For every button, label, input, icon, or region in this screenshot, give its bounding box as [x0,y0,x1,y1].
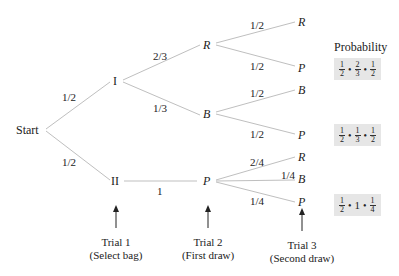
node-first-draw-B: B [203,108,210,120]
edge-prob-I-B: 1/3 [153,103,167,114]
edge-prob-R-R: 1/2 [250,20,264,31]
probability-box-3: 12 • 1 • 14 [334,194,381,216]
trial-1-label: Trial 1 (Select bag) [86,236,146,262]
fraction: 12 [370,127,376,144]
probability-box-1: 12 • 23 • 12 [334,58,381,80]
edge-prob-B-B: 1/2 [250,88,264,99]
node-second-draw-B-B: B [298,84,305,96]
trial-3-label: Trial 3 (Second draw) [266,239,338,265]
fraction: 13 [355,127,361,144]
node-second-draw-R-R: R [298,16,305,28]
edge-prob-I-R: 2/3 [153,51,167,62]
fraction: 14 [370,197,376,214]
node-second-draw-B-P: P [298,129,305,141]
edge-prob-start-I: 1/2 [62,92,76,103]
edge-prob-P-B: 1/4 [281,170,295,181]
edge-prob-P-P: 1/4 [250,196,264,207]
node-bag-II: II [111,175,119,187]
fraction: 23 [355,61,361,78]
node-first-draw-R: R [203,39,210,51]
node-second-draw-P-P: P [298,196,305,208]
multiply-dot: • [364,64,368,75]
multiply-dot: • [348,64,352,75]
edge-prob-B-P: 1/2 [250,129,264,140]
node-bag-I: I [113,75,117,87]
probability-box-2: 12 • 13 • 12 [334,124,381,146]
probability-header: Probability [334,41,387,53]
trial-2-label: Trial 2 (First draw) [178,236,238,262]
multiply-dot: • [363,200,367,211]
multiply-dot: • [348,130,352,141]
whole-number: 1 [355,199,361,211]
edge-prob-start-II: 1/2 [62,157,76,168]
multiply-dot: • [348,200,352,211]
fraction: 12 [339,61,345,78]
multiply-dot: • [364,130,368,141]
node-second-draw-P-B: B [298,173,305,185]
node-first-draw-P: P [203,175,210,187]
node-second-draw-R-P: P [298,62,305,74]
edge-prob-R-P: 1/2 [250,61,264,72]
fraction: 12 [339,197,345,214]
fraction: 12 [370,61,376,78]
node-second-draw-P-R: R [298,151,305,163]
edge-prob-II-P: 1 [157,186,163,197]
fraction: 12 [339,127,345,144]
start-node: Start [16,124,39,136]
edge-prob-P-R: 2/4 [250,157,264,168]
